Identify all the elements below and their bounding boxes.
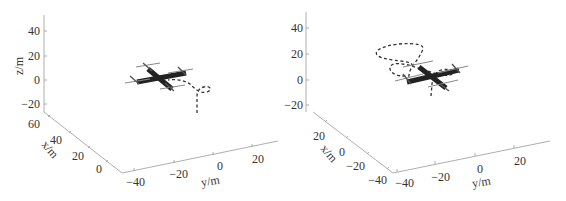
x-axis-label: x/m (318, 142, 341, 166)
y-tick-0: 0 (217, 159, 223, 173)
x-tick-neg20: −20 (346, 159, 365, 173)
y-tick-neg40: −40 (126, 175, 145, 189)
y-tick-neg40: −40 (395, 176, 414, 190)
z-tick-neg20: −20 (21, 97, 40, 111)
z-tick-0: 0 (34, 73, 40, 87)
plot-right-canvas: 40 20 0 −20 z/m 20 0 −20 −40 x/m −40 −20… (283, 0, 566, 201)
quadrotor-icon (125, 63, 193, 91)
x-tick-0: 0 (96, 162, 102, 176)
plot-left: 40 20 0 −20 z/m 60 40 20 0 x/m −40 −20 0… (0, 0, 283, 201)
y-axis-label: y/m (200, 172, 221, 189)
y-axis-line (393, 141, 550, 173)
x-tick-20: 20 (313, 129, 325, 143)
z-tick-40: 40 (28, 24, 40, 38)
z-tick-20: 20 (291, 47, 303, 61)
y-tick-20: 20 (252, 152, 264, 166)
x-tick-0: 0 (339, 145, 345, 159)
z-tick-20: 20 (28, 49, 40, 63)
quadrotor-icon (395, 61, 468, 91)
x-tick-20: 20 (72, 149, 84, 163)
trajectory-path (376, 44, 453, 96)
x-tick-neg40: −40 (368, 173, 387, 187)
y-tick-20: 20 (514, 154, 526, 168)
y-axis-label: y/m (471, 173, 492, 190)
z-tick-neg20: −20 (284, 98, 303, 112)
plot-right: 40 20 0 −20 z/m 20 0 −20 −40 x/m −40 −20… (283, 0, 566, 201)
z-axis-label: z/m (12, 56, 26, 75)
z-axis-label: z/m (283, 48, 285, 67)
y-tick-neg20: −20 (169, 167, 188, 181)
trajectory-path (168, 80, 210, 113)
y-tick-neg20: −20 (431, 170, 450, 184)
x-tick-60: 60 (28, 117, 40, 131)
plot-left-canvas: 40 20 0 −20 z/m 60 40 20 0 x/m −40 −20 0… (0, 0, 283, 201)
z-tick-40: 40 (291, 21, 303, 35)
z-tick-0: 0 (297, 73, 303, 87)
